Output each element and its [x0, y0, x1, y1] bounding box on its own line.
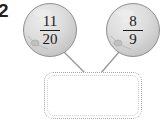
fraction-node-left: 11 20	[22, 2, 78, 58]
sphere-icon	[22, 2, 78, 58]
fraction-node-right: 8 9	[105, 2, 161, 58]
answer-box[interactable]	[44, 72, 142, 119]
worksheet-problem-figure: 2 11 20	[0, 0, 163, 125]
answer-box-value	[45, 73, 141, 118]
sphere-icon	[105, 2, 161, 58]
